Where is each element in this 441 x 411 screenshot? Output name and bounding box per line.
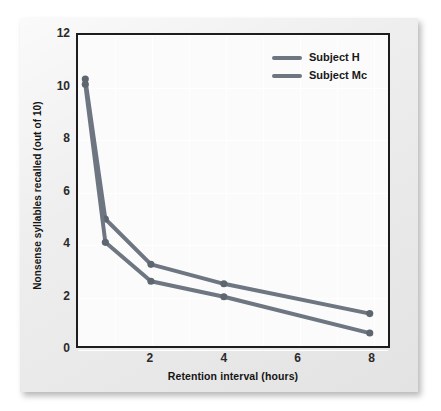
- gridline-horizontal: [78, 350, 388, 351]
- legend-item: Subject Mc: [272, 68, 367, 83]
- y-tick-label: 8: [44, 132, 70, 144]
- series-line: [85, 79, 369, 314]
- x-tick-label: 6: [283, 352, 313, 364]
- data-point-marker: [366, 310, 373, 317]
- y-axis-tick-labels: 024681012: [42, 0, 70, 411]
- legend-color-swatch: [272, 74, 302, 78]
- y-axis-title: Nonsense syllables recalled (out of 10): [32, 96, 43, 296]
- line-chart: 024681012 2468 Nonsense syllables recall…: [0, 0, 441, 411]
- legend-label: Subject Mc: [309, 70, 367, 81]
- data-point-marker: [82, 81, 89, 88]
- chart-legend: Subject HSubject Mc: [272, 50, 367, 86]
- x-tick-label: 4: [209, 352, 239, 364]
- legend-item: Subject H: [272, 50, 367, 65]
- legend-color-swatch: [272, 56, 302, 60]
- y-tick-label: 0: [44, 342, 70, 354]
- y-tick-label: 12: [44, 27, 70, 39]
- y-tick-label: 10: [44, 80, 70, 92]
- data-point-marker: [366, 329, 373, 336]
- data-point-marker: [102, 239, 109, 246]
- x-tick-label: 8: [357, 352, 387, 364]
- data-point-marker: [147, 278, 154, 285]
- data-point-marker: [220, 280, 227, 287]
- y-tick-label: 2: [44, 290, 70, 302]
- data-point-marker: [220, 293, 227, 300]
- x-tick-label: 2: [135, 352, 165, 364]
- data-point-marker: [147, 261, 154, 268]
- legend-label: Subject H: [309, 52, 360, 63]
- y-tick-label: 4: [44, 237, 70, 249]
- x-axis-title: Retention interval (hours): [76, 370, 390, 382]
- y-tick-label: 6: [44, 185, 70, 197]
- series-line: [85, 84, 369, 333]
